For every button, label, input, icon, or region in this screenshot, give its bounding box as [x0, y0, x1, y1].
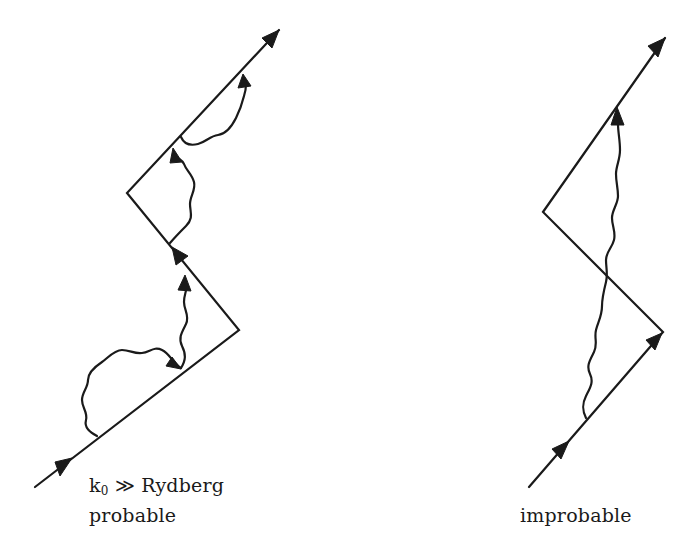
left-photon-vertical-arrow-icon [178, 275, 191, 291]
right-caption-improbable: improbable [520, 502, 632, 528]
right-outgoing-arrow-icon [648, 38, 665, 57]
left-photon-loop-arrow-icon [166, 357, 181, 369]
right-photon-arrow-icon [611, 107, 624, 125]
right-diagram [529, 38, 665, 487]
left-photon-upper-1-arrow-icon [170, 148, 182, 163]
left-middle-arrow-icon [172, 247, 188, 265]
left-diagram [35, 30, 279, 487]
left-caption-probable: probable [89, 502, 176, 528]
left-caption-rydberg: ≫ Rydberg [109, 474, 225, 496]
left-caption-subscript: 0 [101, 484, 109, 498]
left-incoming-arrow-icon [55, 458, 72, 476]
feynman-diagrams-figure [0, 0, 680, 549]
left-caption-k: k [89, 474, 101, 496]
left-photon-loop-lower [82, 349, 181, 436]
right-electron-line [529, 38, 665, 487]
left-photon-upper-2-arrow-icon [238, 74, 251, 88]
left-photon-upper-1 [170, 158, 194, 243]
left-photon-vertical [180, 290, 187, 368]
left-photon-upper-2 [181, 84, 246, 145]
left-caption-condition: k0 ≫ Rydberg [89, 472, 224, 504]
